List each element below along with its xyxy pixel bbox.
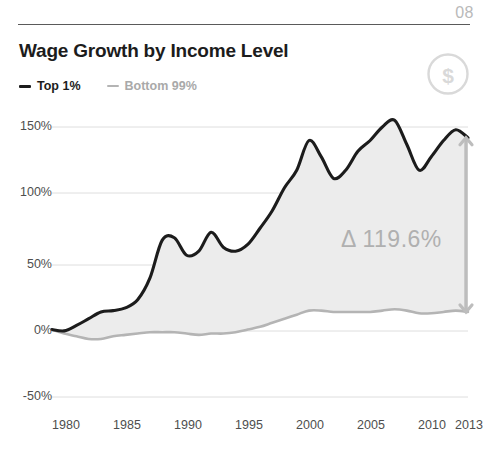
y-tick-label: 100%: [6, 185, 52, 199]
header-divider: [18, 24, 470, 25]
x-tick-label: 1995: [235, 418, 263, 432]
legend-dash-icon: [107, 85, 119, 87]
chart-legend: Top 1% Bottom 99%: [19, 79, 197, 93]
x-axis-labels: 1980 1985 1990 1995 2000 2005 2010 2013: [0, 418, 488, 440]
x-tick-label: 1985: [113, 418, 141, 432]
chart-plot-area: [0, 110, 488, 410]
x-tick-label: 2000: [296, 418, 324, 432]
dollar-glyph: $: [442, 64, 454, 87]
delta-annotation-label: Δ 119.6%: [341, 226, 442, 253]
legend-dash-icon: [19, 85, 31, 88]
y-tick-label: 0%: [6, 323, 52, 337]
page-number: 08: [455, 4, 474, 22]
y-tick-label: 150%: [6, 119, 52, 133]
page-title: Wage Growth by Income Level: [19, 40, 288, 62]
y-axis-labels: 150% 100% 50% 0% -50%: [0, 110, 52, 410]
dollar-circle-icon: $: [426, 52, 470, 96]
legend-item-label: Top 1%: [37, 79, 81, 93]
x-tick-label: 1980: [52, 418, 80, 432]
x-tick-label: 2010: [418, 418, 446, 432]
y-tick-label: 50%: [6, 257, 52, 271]
legend-item-top-1[interactable]: Top 1%: [19, 79, 81, 93]
x-tick-label: 1990: [174, 418, 202, 432]
x-tick-label: 2013: [455, 418, 483, 432]
legend-item-bottom-99[interactable]: Bottom 99%: [107, 79, 197, 93]
slide-page: 08 Wage Growth by Income Level Top 1% Bo…: [0, 0, 488, 449]
y-tick-label: -50%: [6, 389, 52, 403]
x-tick-label: 2005: [357, 418, 385, 432]
legend-item-label: Bottom 99%: [125, 79, 197, 93]
